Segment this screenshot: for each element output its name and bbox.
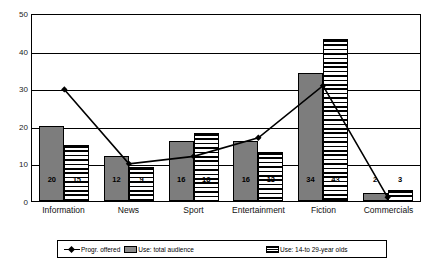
bar-value-label: 9	[130, 176, 153, 184]
bar-group: 2015	[32, 15, 97, 201]
x-axis-category-label: Information	[31, 205, 96, 215]
bar-value-label: 16	[170, 176, 193, 184]
bar-group: 23	[355, 15, 420, 201]
legend-item-total-audience: Use: total audience	[124, 241, 194, 257]
y-axis-tick-label: 50	[19, 11, 28, 19]
bar: 15	[64, 145, 89, 201]
bar-group: 3443	[291, 15, 356, 201]
y-axis-tick-label: 20	[19, 124, 28, 132]
x-axis-category-label: Fiction	[291, 205, 356, 215]
x-axis-labels: InformationNewsSportEntertainmentFiction…	[31, 205, 421, 215]
plot-area: 01020304050 201512916181613344323	[31, 14, 421, 202]
y-axis-tick-label: 0	[24, 199, 28, 207]
x-axis-category-label: News	[96, 205, 161, 215]
bar: 20	[39, 126, 64, 201]
bar: 12	[104, 156, 129, 201]
bar: 34	[298, 73, 323, 201]
bar-value-label: 43	[324, 176, 347, 184]
bar-group: 1618	[161, 15, 226, 201]
x-axis-category-label: Sport	[161, 205, 226, 215]
bar-group: 1613	[226, 15, 291, 201]
bar-value-label: 16	[234, 176, 257, 184]
bar: 9	[129, 167, 154, 201]
bar-groups: 201512916181613344323	[32, 15, 420, 201]
y-axis-tick-label: 10	[19, 161, 28, 169]
bar-value-label: 34	[299, 176, 322, 184]
bar-value-label: 15	[65, 176, 88, 184]
striped-swatch-icon	[266, 246, 279, 253]
legend-item-young-audience: Use: 14-to 29-year olds	[266, 241, 348, 257]
legend-label-total-audience: Use: total audience	[138, 246, 194, 253]
y-axis-tick-label: 40	[19, 49, 28, 57]
bar-value-label: 18	[195, 176, 218, 184]
x-axis-category-label: Commercials	[356, 205, 421, 215]
bar-value-label: 20	[40, 176, 63, 184]
bar-group: 129	[97, 15, 162, 201]
legend-label-progr-offered: Progr. offered	[81, 246, 120, 253]
x-axis-category-label: Entertainment	[226, 205, 291, 215]
bar: 3	[388, 190, 413, 201]
bar: 43	[323, 39, 348, 201]
bar-value-label: 2	[364, 176, 387, 184]
bar: 16	[233, 141, 258, 201]
bar-value-label: 3	[389, 176, 412, 184]
bar: 2	[363, 193, 388, 201]
bar-value-label: 12	[105, 176, 128, 184]
y-axis-tick-label: 30	[19, 86, 28, 94]
chart-container: 01020304050 201512916181613344323 Inform…	[0, 0, 436, 269]
bar: 13	[258, 152, 283, 201]
chart-legend: Progr. offered Use: total audience Use: …	[57, 240, 387, 258]
line-diamond-marker-icon	[64, 246, 80, 253]
bar: 18	[194, 133, 219, 201]
legend-item-progr-offered: Progr. offered	[64, 241, 120, 257]
bar: 16	[169, 141, 194, 201]
bar-value-label: 13	[259, 176, 282, 184]
solid-gray-swatch-icon	[124, 246, 137, 253]
legend-label-young-audience: Use: 14-to 29-year olds	[280, 246, 348, 253]
